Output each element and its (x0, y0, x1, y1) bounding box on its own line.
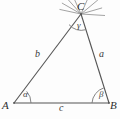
angle-label-beta: β (99, 90, 103, 99)
side-label-a: a (99, 49, 104, 59)
triangle-outline (14, 14, 109, 103)
side-label-b: b (35, 49, 40, 59)
angle-label-alpha: α (23, 90, 28, 99)
vertex-dot-C (80, 13, 82, 15)
vertex-dot-A (13, 102, 15, 104)
vertex-label-B: B (110, 100, 117, 111)
side-label-c: c (59, 103, 63, 113)
angle-label-gamma: γ (77, 21, 81, 30)
vertex-label-A: A (2, 100, 9, 111)
vertex-label-C: C (77, 1, 84, 12)
angle-arcs (27, 25, 104, 103)
ray-8 (81, 14, 105, 16)
triangle-figure: A B C a b c α β γ (0, 0, 120, 119)
side-a-line (81, 14, 109, 103)
